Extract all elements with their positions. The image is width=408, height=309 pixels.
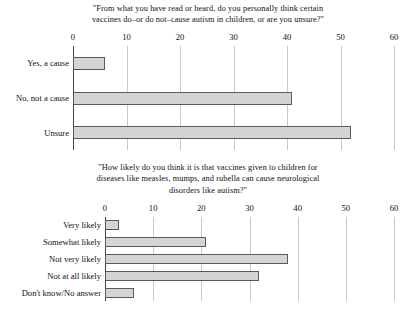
y-tick-label: Unsure	[0, 128, 69, 138]
y-tick-label: Don't know/No answer	[0, 288, 101, 298]
y-tick-label: Not at all likely	[0, 271, 101, 281]
y-tick-label: Not very likely	[0, 254, 101, 264]
chart-panel-bottom: "How likely do you think it is that vacc…	[0, 155, 408, 309]
y-axis-labels-top: Yes, a causeNo, not a causeUnsure	[0, 0, 408, 155]
y-axis-labels-bottom: Very likelySomewhat likelyNot very likel…	[0, 155, 408, 309]
chart-panel-top: "From what you have read or heard, do yo…	[0, 0, 408, 155]
y-tick-label: Yes, a cause	[0, 58, 69, 68]
y-tick-label: No, not a cause	[0, 93, 69, 103]
figure-two-bar-charts: "From what you have read or heard, do yo…	[0, 0, 408, 309]
y-tick-label: Very likely	[0, 220, 101, 230]
y-tick-label: Somewhat likely	[0, 237, 101, 247]
